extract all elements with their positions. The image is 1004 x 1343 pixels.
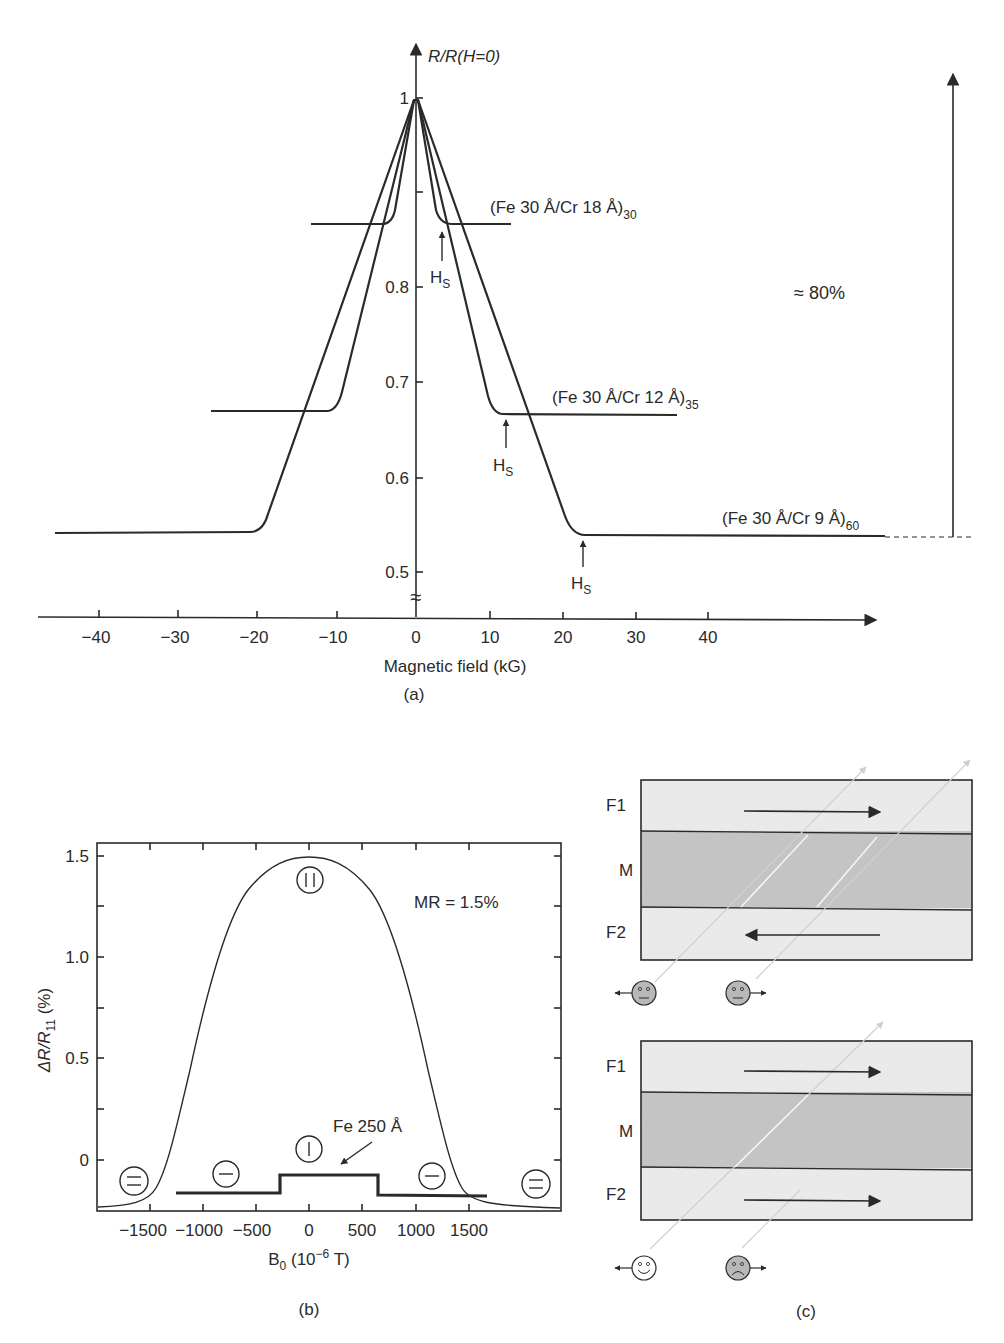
y-tick-label: 0	[80, 1151, 89, 1170]
y-tick-label: 0.5	[385, 563, 409, 582]
panel-c: F1 M F2	[606, 760, 972, 1321]
x-tick-label: 0	[411, 628, 420, 647]
hs-marker-cr18: HS	[430, 232, 450, 291]
y-tick-label: 0.7	[385, 373, 409, 392]
panel-a-x-axis-label: Magnetic field (kG)	[384, 657, 527, 676]
electron-neutral-spin-right	[726, 981, 766, 1005]
layer-f1	[641, 1041, 972, 1092]
fe-label-arrow	[341, 1142, 372, 1164]
x-tick-label: −10	[319, 628, 348, 647]
curve-cr18	[311, 100, 511, 224]
x-tick-label: 1000	[397, 1221, 435, 1240]
state-symbol-single-center	[296, 1136, 322, 1162]
state-symbol-parallel-right	[522, 1170, 550, 1198]
layer-label: M	[619, 861, 633, 880]
hs-marker-cr9: HS	[571, 541, 591, 597]
x-tick-label: −500	[233, 1221, 271, 1240]
electron-happy-spin-left	[615, 1256, 656, 1280]
series-label-cr9: (Fe 30 Å/Cr 9 Å)60	[722, 509, 859, 533]
state-symbol-dash-left	[213, 1161, 239, 1187]
x-tick-label: 500	[348, 1221, 376, 1240]
panel-a-x-tick-labels: −40 −30 −20 −10 0 10 20 30 40	[82, 628, 718, 647]
fe-label: Fe 250 Å	[333, 1117, 403, 1136]
layer-f2	[641, 908, 972, 960]
y-tick-label: 1.5	[65, 847, 89, 866]
layer-f2	[641, 1168, 972, 1220]
x-tick-label: 20	[554, 628, 573, 647]
magnitude-label: ≈ 80%	[794, 283, 845, 303]
layer-m	[641, 831, 972, 908]
x-tick-label: 30	[627, 628, 646, 647]
x-tick-label: −40	[82, 628, 111, 647]
curve-cr12	[211, 100, 677, 415]
spin-valve-parallel: F1 M F2	[606, 1022, 972, 1280]
x-tick-label: −1000	[175, 1221, 223, 1240]
axis-break-symbol: ≈	[411, 586, 422, 608]
figure-canvas: R/R(H=0) 1 0.8 0.7 0.6 0.5 ≈	[0, 0, 1004, 1343]
panel-a-caption: (a)	[404, 685, 425, 704]
x-tick-label: −1500	[119, 1221, 167, 1240]
layer-label: F1	[606, 1057, 626, 1076]
panel-a-y-ticks	[416, 98, 423, 572]
x-tick-label: −20	[240, 628, 269, 647]
panel-a-x-axis	[38, 617, 876, 620]
spin-valve-antiparallel: F1 M F2	[606, 760, 972, 1005]
magnetization-arrow-right	[744, 1071, 880, 1072]
x-tick-label: 0	[304, 1221, 313, 1240]
mr-label: MR = 1.5%	[414, 893, 499, 912]
panel-b-caption: (b)	[299, 1300, 320, 1319]
electron-sad-spin-right	[726, 1256, 766, 1280]
electron-neutral-spin-left	[615, 981, 656, 1005]
x-tick-label: −30	[161, 628, 190, 647]
x-tick-label: 40	[699, 628, 718, 647]
layer-f1	[641, 780, 972, 831]
y-tick-label: 0.6	[385, 469, 409, 488]
y-tick-label: 0.8	[385, 278, 409, 297]
panel-a-y-tick-labels: 1 0.8 0.7 0.6 0.5	[385, 89, 409, 582]
y-tick-label: 0.5	[65, 1049, 89, 1068]
layer-label: F2	[606, 923, 626, 942]
layer-label: F1	[606, 796, 626, 815]
panel-c-caption: (c)	[796, 1302, 816, 1321]
hs-marker-cr12: HS	[493, 420, 513, 479]
svg-text:HS: HS	[430, 268, 450, 291]
panel-a-y-axis-label: R/R(H=0)	[428, 47, 500, 66]
panel-b: 1.5 1.0 0.5 0 −1500 −1000 −500 0 500 100…	[35, 843, 561, 1319]
panel-b-x-axis-label: B0 (10−6 T)	[268, 1247, 349, 1273]
panel-b-x-tick-labels: −1500 −1000 −500 0 500 1000 1500	[119, 1221, 488, 1240]
state-symbol-parallel-left	[120, 1167, 148, 1195]
y-tick-label: 1.0	[65, 948, 89, 967]
series-label-cr18: (Fe 30 Å/Cr 18 Å)30	[490, 198, 637, 222]
series-label-cr12: (Fe 30 Å/Cr 12 Å)35	[552, 388, 699, 412]
layer-label: M	[619, 1122, 633, 1141]
panel-b-y-axis-label: ΔR/R11 (%)	[35, 988, 58, 1073]
x-tick-label: 1500	[450, 1221, 488, 1240]
state-symbol-dash-right	[419, 1163, 445, 1189]
magnetization-arrow-right	[744, 1200, 880, 1201]
y-tick-label: 1	[400, 89, 409, 108]
panel-b-y-tick-labels: 1.5 1.0 0.5 0	[65, 847, 89, 1170]
state-symbol-antiparallel-top	[297, 867, 323, 893]
layer-label: F2	[606, 1185, 626, 1204]
panel-a: R/R(H=0) 1 0.8 0.7 0.6 0.5 ≈	[38, 44, 975, 704]
svg-text:HS: HS	[493, 456, 513, 479]
x-tick-label: 10	[481, 628, 500, 647]
layer-m	[641, 1092, 972, 1168]
svg-text:HS: HS	[571, 574, 591, 597]
magnetization-arrow-right	[744, 811, 880, 812]
